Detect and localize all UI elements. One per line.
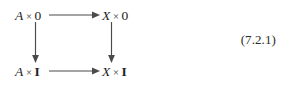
diagram-vertex-top-left: A×0 [15,9,42,23]
arrow-bottom-horizontal-right-icon [49,68,100,75]
times-operator-icon: × [110,67,121,78]
vertex-factor-label: 0 [35,8,42,23]
diagram-vertex-bottom-right: X×I [102,65,127,79]
commutative-diagram-figure: A×0 X×0 A×I X×I (7.2.1) [0,0,284,85]
vertex-factor-label: I [35,64,40,79]
vertex-factor-label: I [122,64,127,79]
times-operator-icon: × [23,67,34,78]
equation-number: (7.2.1) [241,32,276,48]
arrow-left-vertical-down-icon [32,22,39,63]
diagram-vertex-top-right: X×0 [102,9,129,23]
vertex-factor-label: 0 [122,8,129,23]
diagram-vertex-bottom-left: A×I [15,65,40,79]
times-operator-icon: × [23,11,34,22]
arrow-top-horizontal-right-icon [49,12,100,19]
times-operator-icon: × [110,11,121,22]
arrow-right-vertical-down-icon [108,22,115,63]
